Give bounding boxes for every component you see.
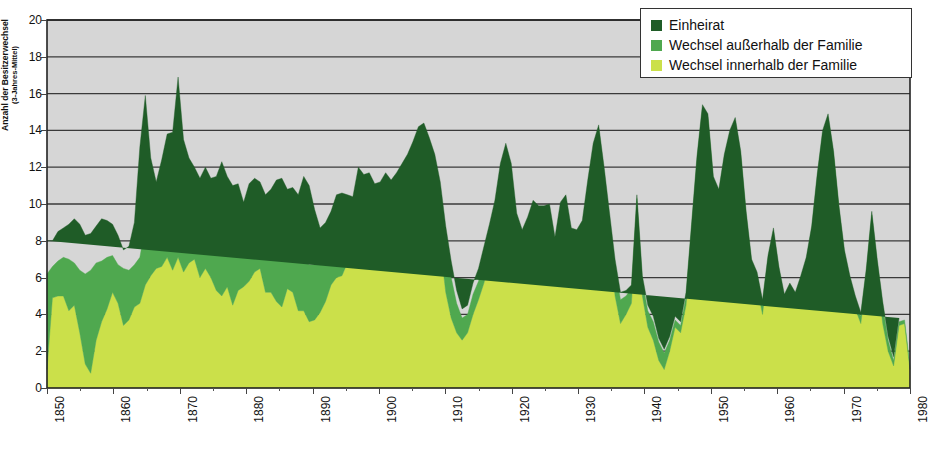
x-tick-mark xyxy=(445,388,446,394)
x-tick-label: 1900 xyxy=(385,396,399,423)
y-tick-label: 20 xyxy=(8,13,42,27)
x-tick-mark xyxy=(512,388,513,394)
x-tick-mark xyxy=(777,388,778,394)
legend-item-wechsel-ausserhalb: Wechsel außerhalb der Familie xyxy=(651,35,903,55)
y-tick-label: 2 xyxy=(8,344,42,358)
x-minor-tick-mark xyxy=(545,388,546,391)
x-tick-mark xyxy=(113,388,114,394)
x-minor-tick-mark xyxy=(346,388,347,391)
x-minor-tick-mark xyxy=(810,388,811,391)
x-tick-mark xyxy=(644,388,645,394)
x-tick-label: 1940 xyxy=(650,396,664,423)
y-tick-mark xyxy=(41,241,47,242)
y-tick-label: 16 xyxy=(8,87,42,101)
x-tick-mark xyxy=(246,388,247,394)
x-tick-mark xyxy=(379,388,380,394)
y-tick-mark xyxy=(41,57,47,58)
legend-swatch-wechsel-innerhalb xyxy=(651,60,662,71)
x-tick-label: 1960 xyxy=(783,396,797,423)
x-minor-tick-mark xyxy=(80,388,81,391)
y-tick-mark xyxy=(41,167,47,168)
x-minor-tick-mark xyxy=(279,388,280,391)
x-tick-label: 1870 xyxy=(186,396,200,423)
x-minor-tick-mark xyxy=(877,388,878,391)
y-tick-label: 14 xyxy=(8,123,42,137)
y-tick-mark xyxy=(41,130,47,131)
y-tick-label: 10 xyxy=(8,197,42,211)
y-tick-label: 12 xyxy=(8,160,42,174)
x-tick-label: 1850 xyxy=(53,396,67,423)
legend-label-einheirat: Einheirat xyxy=(669,17,724,33)
x-tick-label: 1910 xyxy=(451,396,465,423)
y-tick-label: 4 xyxy=(8,307,42,321)
legend: Einheirat Wechsel außerhalb der Familie … xyxy=(640,8,912,78)
y-tick-mark xyxy=(41,94,47,95)
x-tick-mark xyxy=(711,388,712,394)
legend-item-wechsel-innerhalb: Wechsel innerhalb der Familie xyxy=(651,55,903,75)
legend-label-wechsel-innerhalb: Wechsel innerhalb der Familie xyxy=(669,57,857,73)
x-tick-mark xyxy=(578,388,579,394)
y-axis-tick-labels: 02468101214161820 xyxy=(6,0,42,450)
x-tick-mark xyxy=(47,388,48,394)
x-tick-mark xyxy=(844,388,845,394)
y-tick-label: 6 xyxy=(8,271,42,285)
legend-swatch-einheirat xyxy=(651,20,662,31)
y-tick-mark xyxy=(41,388,47,389)
x-tick-mark xyxy=(910,388,911,394)
y-tick-mark xyxy=(41,351,47,352)
y-tick-label: 0 xyxy=(8,381,42,395)
x-tick-label: 1880 xyxy=(252,396,266,423)
y-tick-label: 18 xyxy=(8,50,42,64)
x-minor-tick-mark xyxy=(213,388,214,391)
x-minor-tick-mark xyxy=(678,388,679,391)
legend-item-einheirat: Einheirat xyxy=(651,15,903,35)
x-tick-label: 1920 xyxy=(518,396,532,423)
x-tick-label: 1970 xyxy=(850,396,864,423)
x-tick-label: 1980 xyxy=(916,396,930,423)
x-tick-mark xyxy=(313,388,314,394)
x-minor-tick-mark xyxy=(147,388,148,391)
legend-swatch-wechsel-ausserhalb xyxy=(651,40,662,51)
x-minor-tick-mark xyxy=(479,388,480,391)
legend-label-wechsel-ausserhalb: Wechsel außerhalb der Familie xyxy=(669,37,863,53)
y-tick-mark xyxy=(41,314,47,315)
x-minor-tick-mark xyxy=(744,388,745,391)
y-tick-mark xyxy=(41,278,47,279)
x-minor-tick-mark xyxy=(412,388,413,391)
x-tick-label: 1950 xyxy=(717,396,731,423)
x-tick-mark xyxy=(180,388,181,394)
y-tick-mark xyxy=(41,20,47,21)
x-tick-label: 1860 xyxy=(119,396,133,423)
x-tick-label: 1890 xyxy=(319,396,333,423)
y-tick-mark xyxy=(41,204,47,205)
x-tick-label: 1930 xyxy=(584,396,598,423)
x-minor-tick-mark xyxy=(611,388,612,391)
y-tick-label: 8 xyxy=(8,234,42,248)
